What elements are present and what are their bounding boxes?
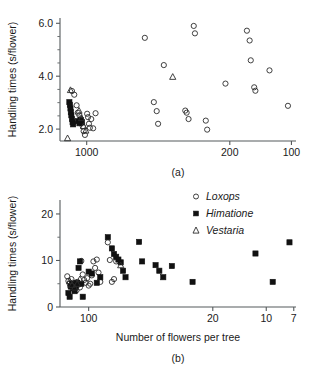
y-axis-title: Handling times (s/flower) [6, 196, 18, 312]
y-ticks: 2.04.06.0 [38, 17, 60, 135]
data-point-filled-square [270, 279, 275, 284]
data-point-filled-square [140, 259, 145, 264]
data-point-filled-square [109, 246, 114, 251]
data-point-open-circle [253, 88, 258, 93]
data-point-filled-square [136, 239, 141, 244]
y-ticks: 01020 [41, 208, 60, 313]
data-point-filled-square [161, 275, 166, 280]
data-point-open-circle [267, 68, 272, 73]
data-point-open-circle [248, 58, 253, 63]
y-axis-title: Handling times (s/flower) [6, 22, 18, 138]
x-ticks: 10020107 [80, 307, 297, 324]
y-tick-label: 2.0 [38, 123, 53, 135]
data-point-filled-square [89, 271, 94, 276]
x-tick-label: 100 [283, 146, 301, 158]
series-himatione [66, 235, 292, 300]
legend: LoxopsHimationeVestaria [193, 190, 253, 236]
data-point-open-triangle [170, 74, 176, 80]
legend-open-circle-icon [194, 194, 199, 199]
legend-item-loxops: Loxops [194, 190, 241, 202]
y-tick-label: 0 [47, 301, 53, 313]
data-point-filled-square [253, 251, 258, 256]
legend-label: Vestaria [206, 224, 244, 236]
y-tick-label: 6.0 [38, 17, 53, 29]
data-point-filled-square [76, 265, 81, 270]
panel-a-handling-times-vs-flowers: 2.04.06.01000200100Handling times (s/flo… [0, 0, 314, 186]
data-point-open-circle [155, 121, 160, 126]
data-point-filled-square [287, 240, 292, 245]
data-point-filled-square [71, 122, 76, 127]
data-point-filled-square [77, 259, 82, 264]
data-point-open-circle [105, 240, 110, 245]
data-point-open-circle [74, 103, 79, 108]
x-tick-label: 10 [260, 312, 272, 324]
data-points [65, 235, 292, 300]
legend-filled-square-icon [194, 211, 199, 216]
data-point-open-circle [191, 23, 196, 28]
data-point-filled-square [80, 294, 85, 299]
series-vestaria [67, 262, 124, 290]
data-point-open-circle [154, 109, 159, 114]
panel-b-handling-times-vs-flowers: 0102010020107Handling times (s/flower)Nu… [0, 186, 314, 372]
panel-label: (a) [172, 166, 185, 178]
data-point-open-circle [192, 31, 197, 36]
data-point-open-circle [244, 28, 249, 33]
data-point-open-circle [80, 272, 85, 277]
data-point-filled-square [67, 294, 72, 299]
x-tick-label: 100 [80, 312, 98, 324]
y-tick-label: 10 [41, 254, 53, 266]
data-point-open-triangle [67, 87, 73, 93]
data-point-open-circle [151, 100, 156, 105]
data-point-open-circle [161, 62, 166, 67]
data-point-filled-square [94, 280, 99, 285]
legend-label: Loxops [206, 190, 241, 202]
x-tick-label: 20 [207, 312, 219, 324]
x-tick-label: 200 [221, 146, 239, 158]
axes [60, 18, 296, 141]
legend-item-himatione: Himatione [194, 207, 254, 219]
data-point-filled-square [105, 235, 110, 240]
x-ticks: 1000200100 [75, 141, 300, 158]
legend-label: Himatione [206, 207, 253, 219]
data-point-open-circle [205, 127, 210, 132]
data-point-open-triangle [64, 135, 70, 141]
data-point-filled-square [169, 263, 174, 268]
x-tick-label: 1000 [75, 146, 99, 158]
y-tick-label: 4.0 [38, 70, 53, 82]
data-point-open-circle [203, 118, 208, 123]
data-point-filled-square [190, 279, 195, 284]
x-axis-title: Number of flowers per tree [116, 331, 240, 343]
series-loxops [69, 23, 290, 137]
panel-label: (b) [172, 352, 185, 364]
data-point-filled-square [153, 263, 158, 268]
data-point-open-circle [93, 111, 98, 116]
data-point-open-circle [186, 116, 191, 121]
data-point-open-circle [142, 35, 147, 40]
data-point-open-circle [107, 257, 112, 262]
data-point-filled-square [120, 268, 125, 273]
data-point-open-circle [92, 265, 97, 270]
data-point-open-circle [85, 111, 90, 116]
data-point-filled-square [98, 275, 103, 280]
data-points [64, 23, 290, 140]
data-point-filled-square [72, 289, 77, 294]
data-point-open-circle [91, 126, 96, 131]
data-point-filled-square [157, 268, 162, 273]
data-point-open-circle [252, 85, 257, 90]
data-point-open-circle [285, 103, 290, 108]
panel-a-plot: 2.04.06.01000200100Handling times (s/flo… [0, 0, 314, 186]
legend-item-vestaria: Vestaria [193, 224, 244, 236]
data-point-open-circle [223, 81, 228, 86]
data-point-open-circle [247, 38, 252, 43]
x-tick-label: 7 [291, 312, 297, 324]
axes [60, 200, 296, 307]
figure-container: 2.04.06.01000200100Handling times (s/flo… [0, 0, 314, 372]
panel-b-plot: 0102010020107Handling times (s/flower)Nu… [0, 186, 314, 372]
y-tick-label: 20 [41, 208, 53, 220]
data-point-filled-square [123, 275, 128, 280]
legend-open-triangle-icon [193, 227, 199, 233]
